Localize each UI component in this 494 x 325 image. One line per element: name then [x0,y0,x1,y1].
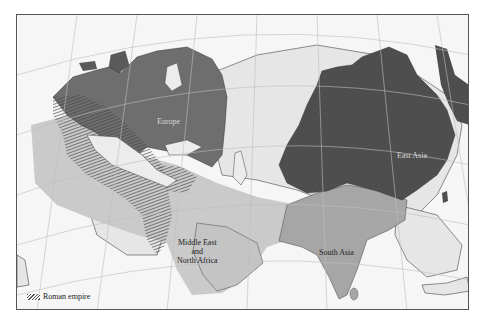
label-middle-east-north-africa: Middle East and North Africa [177,238,218,265]
sri-lanka [350,288,358,300]
label-mena-line-2: and [177,247,218,256]
legend: Roman empire [27,292,90,301]
legend-label-roman-empire: Roman empire [43,292,90,301]
map-frame: Europe East Asia Middle East and North A… [16,14,469,310]
label-mena-line-1: Middle East [177,238,218,247]
label-south-asia: South Asia [319,248,354,257]
label-east-asia: East Asia [397,151,427,160]
label-europe: Europe [157,117,180,126]
taiwan [442,191,448,203]
roman-empire-hatch-swatch [27,294,40,300]
map-canvas [17,15,469,310]
label-mena-line-3: North Africa [177,256,218,265]
